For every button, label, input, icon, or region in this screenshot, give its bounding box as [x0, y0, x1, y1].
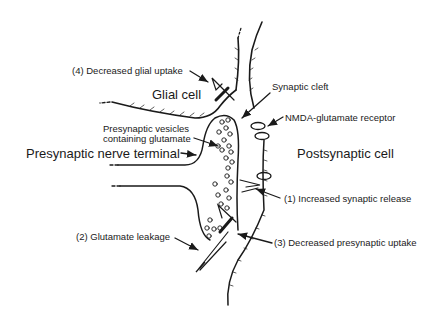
nmda-receptor-2: [255, 133, 269, 140]
label-increased-synaptic-release: (1) Increased synaptic release: [284, 194, 411, 204]
label-vesicles-line2: containing glutamate: [103, 134, 191, 144]
postsynaptic-upper-membrane: [249, 22, 262, 108]
glutamate-synapse-diagram: (4) Decreased glial uptake Glial cell Sy…: [0, 0, 443, 320]
glial-upper-membrane: [236, 38, 239, 90]
label-decreased-presynaptic-uptake: (3) Decreased presynaptic uptake: [274, 238, 417, 248]
postsynaptic-membrane: [228, 140, 264, 305]
label-glutamate-leakage: (2) Glutamate leakage: [76, 232, 170, 242]
label-nmda-receptor: NMDA-glutamate receptor: [285, 113, 395, 123]
nmda-receptor-1: [251, 123, 265, 130]
label-postsynaptic-cell: Postsynaptic cell: [297, 147, 394, 160]
label-synaptic-cleft: Synaptic cleft: [272, 82, 329, 92]
label-decreased-glial-uptake: (4) Decreased glial uptake: [72, 66, 183, 76]
label-glial-cell: Glial cell: [152, 88, 201, 101]
label-presynaptic-terminal: Presynaptic nerve terminal: [26, 147, 180, 160]
nmda-receptor-3: [257, 173, 271, 180]
